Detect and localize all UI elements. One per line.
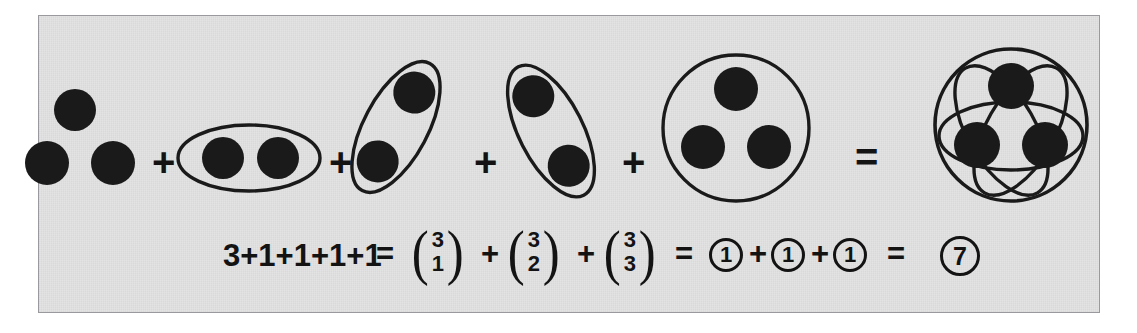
circled-term-2: 1	[771, 238, 805, 272]
paren-close: )	[447, 228, 464, 276]
binomial-top: 3	[432, 228, 444, 252]
equation-plus-1: +	[481, 238, 499, 269]
dot	[681, 125, 725, 169]
dot	[954, 122, 1000, 168]
top-plus-2: +	[329, 142, 352, 182]
dot	[540, 138, 596, 194]
paren-open: (	[508, 228, 525, 276]
equation-plus-4: +	[811, 238, 829, 269]
equation-plus-3: +	[749, 238, 767, 269]
dot	[747, 125, 791, 169]
dot	[202, 137, 244, 179]
binomial-stack: 3 1	[431, 228, 445, 276]
paren-close: )	[639, 228, 656, 276]
paren-open: (	[604, 228, 621, 276]
ellipse-outline	[334, 48, 458, 205]
dot	[386, 64, 443, 121]
top-equals: =	[855, 137, 878, 177]
circled-term-1: 1	[709, 238, 743, 272]
group-tilted-ellipse-pair-right	[334, 48, 458, 205]
binomial-bottom: 3	[624, 252, 636, 276]
top-plus-1: +	[152, 142, 175, 182]
dot	[91, 141, 135, 185]
binomial-3-choose-1: ( 3 1 )	[410, 228, 466, 276]
binomial-3-choose-3: ( 3 3 )	[602, 228, 658, 276]
equation-equals-3: =	[887, 238, 905, 269]
group-horizontal-ellipse-pair	[178, 125, 320, 191]
binomial-stack: 3 3	[623, 228, 637, 276]
paren-close: )	[543, 228, 560, 276]
dot	[349, 133, 406, 190]
dot	[714, 67, 758, 111]
top-plus-4: +	[622, 142, 645, 182]
dot	[25, 141, 69, 185]
binomial-stack: 3 2	[527, 228, 541, 276]
paren-open: (	[412, 228, 429, 276]
binomial-bottom: 2	[528, 252, 540, 276]
equation-equals-1: =	[376, 238, 394, 269]
figure-root: + + + + = 3+1+1+1+1 = ( 3 1 ) + ( 3 2 ) …	[0, 0, 1137, 333]
binomial-top: 3	[528, 228, 540, 252]
binomial-top: 3	[624, 228, 636, 252]
equation-plus-2: +	[577, 238, 595, 269]
group-tilted-ellipse-pair-left	[490, 52, 612, 209]
ellipse-outline	[490, 52, 612, 209]
group-composite-all-subsets	[935, 49, 1087, 210]
dot	[505, 68, 561, 124]
dot	[988, 63, 1034, 109]
equation-equals-2: =	[675, 238, 693, 269]
binomial-3-choose-2: ( 3 2 )	[506, 228, 562, 276]
binomial-bottom: 1	[432, 252, 444, 276]
equation-left-sum: 3+1+1+1+1	[223, 240, 382, 271]
dot	[257, 137, 299, 179]
circled-term-3: 1	[833, 238, 867, 272]
dot	[54, 89, 96, 131]
group-big-circle-triple	[663, 55, 809, 201]
group-three-loose-dots	[25, 89, 135, 185]
top-plus-3: +	[474, 142, 497, 182]
dot	[1022, 122, 1068, 168]
circled-result-7: 7	[940, 236, 980, 276]
